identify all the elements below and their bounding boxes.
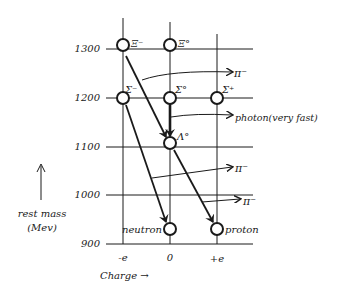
neutron-node (164, 223, 176, 235)
lambda-zero-label: Λ° (176, 131, 189, 142)
pi-minus-emission-1 (142, 72, 232, 80)
svg-text:900: 900 (81, 238, 101, 249)
xi-zero-label: Ξ° (177, 38, 190, 49)
decay-diagram: 1300 1200 1100 1000 900 -e 0 +e Charge →… (0, 0, 344, 296)
svg-text:1300: 1300 (75, 43, 101, 54)
pi-minus-emission-3 (202, 199, 240, 202)
sigma-plus-label: Σ⁺ (221, 84, 234, 95)
svg-text:1200: 1200 (75, 92, 101, 103)
sigma-zero-label: Σ° (174, 84, 187, 95)
xi-minus-label: Ξ⁻ (130, 38, 143, 49)
y-tick-labels: 1300 1200 1100 1000 900 (75, 43, 101, 249)
pi-minus-emission-2 (152, 167, 232, 178)
xi-minus-node (117, 39, 129, 51)
proton-node (211, 223, 223, 235)
grid-horizontal (106, 49, 253, 244)
neutron-label: neutron (122, 224, 162, 235)
svg-text:+e: +e (210, 253, 224, 264)
emission-label-pi1: π⁻ (233, 67, 247, 80)
sigma-minus-label: Σ⁻ (124, 84, 137, 95)
svg-text:1000: 1000 (75, 189, 101, 200)
emission-label-pi2: π⁻ (234, 162, 248, 175)
emission-label-photon: photon(very fast) (235, 112, 318, 123)
svg-text:rest mass: rest mass (18, 208, 67, 219)
photon-emission (171, 114, 232, 117)
svg-text:-e: -e (118, 252, 127, 263)
emission-label-pi3: π⁻ (242, 195, 256, 208)
xi-zero-node (164, 39, 176, 51)
svg-text:1100: 1100 (75, 141, 101, 152)
x-axis-label: Charge → (100, 270, 149, 281)
x-tick-labels: -e 0 +e (118, 252, 224, 264)
y-axis-label: rest mass (Mev) (18, 164, 67, 233)
sigma-to-neutron-arrow (126, 105, 166, 222)
svg-text:0: 0 (167, 252, 174, 263)
lambda-zero-node (164, 137, 176, 149)
lambda-to-proton-arrow (174, 150, 213, 222)
proton-label: proton (225, 224, 259, 235)
svg-text:(Mev): (Mev) (27, 222, 57, 233)
